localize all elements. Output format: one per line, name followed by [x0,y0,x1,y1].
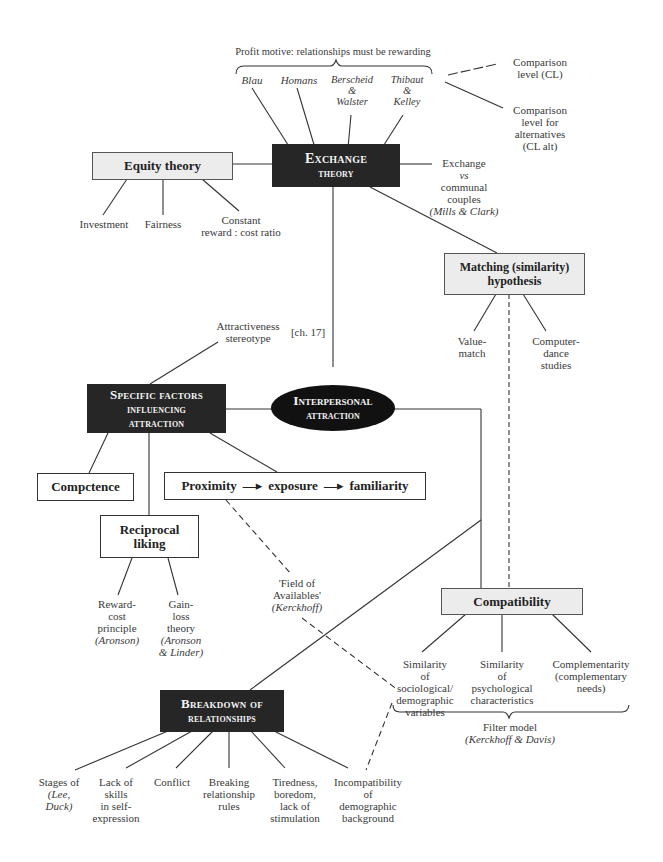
text-line: rules [198,800,260,812]
text-line: Comparison [500,104,580,116]
reciprocal-liking-box[interactable]: Reciprocal liking [100,515,199,558]
text-line: reward : cost ratio [196,226,286,238]
text-line: Reward- [86,598,148,610]
text-line: lack of [266,800,324,812]
compatibility-child-psychological: Similarity of psychological characterist… [462,658,542,706]
text-line: expression [88,812,144,824]
text-line: demographic [330,800,406,812]
text-line: loss [156,610,206,622]
box-line: Breakdown of [181,697,263,711]
box-line: theory [318,166,354,180]
text-line: in self- [88,800,144,812]
compatibility-child-sociological: Similarity of sociological/ demographic … [392,658,458,718]
text-line: Stages of [34,776,84,788]
equity-theory-box[interactable]: Equity theory [92,152,233,180]
text-line: Attractiveness [208,320,288,332]
text-line: Exchange [424,157,504,169]
text-line: (complementary [548,670,634,682]
attractiveness-stereotype-label: Attractiveness stereotype [208,320,288,344]
text-line: (Lee, [34,788,84,800]
text-line: psychological [462,682,542,694]
text-line: (Aronson) [86,634,148,646]
text-line: Availables' [264,589,330,601]
comparison-alt-label: Comparison level for alternatives (CL al… [500,104,580,152]
text-line: Tiredness, [266,776,324,788]
equity-child-investment: Investment [72,218,136,230]
text-line: Lack of [88,776,144,788]
text-line: Incompatibility [330,776,406,788]
filter-model-label: Filter model (Kerckhoff & Davis) [450,721,570,745]
text-line: (Aronson [156,634,206,646]
competence-box[interactable]: Compctence [37,473,134,501]
text-line: 'Field of [264,577,330,589]
exchange-theory-box[interactable]: Exchange theory [272,144,400,187]
text-line: (Mills & Clark) [424,205,504,217]
text-line: Constant [196,214,286,226]
proximity-label: Proximity [181,479,236,493]
box-line: attraction [129,416,185,430]
text-line: alternatives [500,128,580,140]
theorist-line: Homans [276,74,322,86]
breakdown-child-lack-of-skills: Lack of skills in self- expression [88,776,144,824]
text-line: needs) [548,682,634,694]
text-line: match [452,347,492,359]
text-line: Complementarity [548,658,634,670]
breakdown-of-relationships-box[interactable]: Breakdown of relationships [160,690,284,732]
matching-hypothesis-box[interactable]: Matching (similarity) hypothesis [444,253,585,295]
box-line: relationships [188,711,256,725]
text-line: stimulation [266,812,324,824]
familiarity-label: familiarity [349,479,408,493]
equity-child-constant-ratio: Constant reward : cost ratio [196,214,286,238]
profit-motive-label: Profit motive: relationships must be rew… [229,46,437,58]
box-line: influencing [127,402,186,416]
text-line: communal [424,181,504,193]
matching-child-computer-dance: Computer- dance studies [528,335,584,371]
arrow-right-icon: —▸ [243,479,263,493]
theorist-homans: Homans [276,74,322,86]
text-line: variables [392,706,458,718]
compatibility-child-complementarity: Complementarity (complementary needs) [548,658,634,694]
text-line: of [330,788,406,800]
theorist-berscheid-walster: Berscheid & Walster [326,74,378,107]
interpersonal-attraction-node[interactable]: Interpersonal attraction [271,385,395,431]
theorist-line: & [384,85,430,96]
box-line: Matching (similarity) [460,260,570,274]
box-label: Compatibility [473,595,550,609]
chapter-reference: [ch. 17] [288,326,328,338]
text-line: Filter model [450,721,570,733]
comparison-level-label: Comparison level (CL) [500,56,580,80]
reciprocal-child-gain-loss: Gain- loss theory (Aronson & Linder) [156,598,206,658]
text-line: dance [528,347,584,359]
theorist-blau: Blau [232,74,272,86]
specific-factors-box[interactable]: Specific factors influencing attraction [87,384,226,433]
theorist-line: Walster [326,96,378,107]
box-line: Reciprocal [120,523,180,537]
box-line: hypothesis [487,274,541,288]
text-line: characteristics [462,694,542,706]
text-line: relationship [198,788,260,800]
proximity-exposure-familiarity-box[interactable]: Proximity —▸ exposure —▸ familiarity [164,472,426,500]
box-line: Exchange [305,152,367,166]
theorist-line: Berscheid [326,74,378,85]
text-line: couples [424,193,504,205]
text-line: boredom, [266,788,324,800]
text-line: Fairness [140,218,186,230]
compatibility-box[interactable]: Compatibility [441,588,583,615]
arrow-right-icon: —▸ [324,479,344,493]
text-line: background [330,812,406,824]
text-line: Comparison [500,56,580,68]
text-line: principle [86,622,148,634]
text-line: Investment [72,218,136,230]
text-line: level (CL) [500,68,580,80]
text-line: Conflict [150,776,194,788]
box-label: Equity theory [124,159,201,173]
breakdown-child-tiredness: Tiredness, boredom, lack of stimulation [266,776,324,824]
text-line: level for [500,116,580,128]
box-line: liking [134,537,166,551]
text-line: (CL alt) [500,140,580,152]
text-line: Value- [452,335,492,347]
field-of-availables-label: 'Field of Availables' (Kerckhoff) [264,577,330,613]
theorist-line: Kelley [384,96,430,107]
text-line: Similarity [462,658,542,670]
text-line: of [462,670,542,682]
